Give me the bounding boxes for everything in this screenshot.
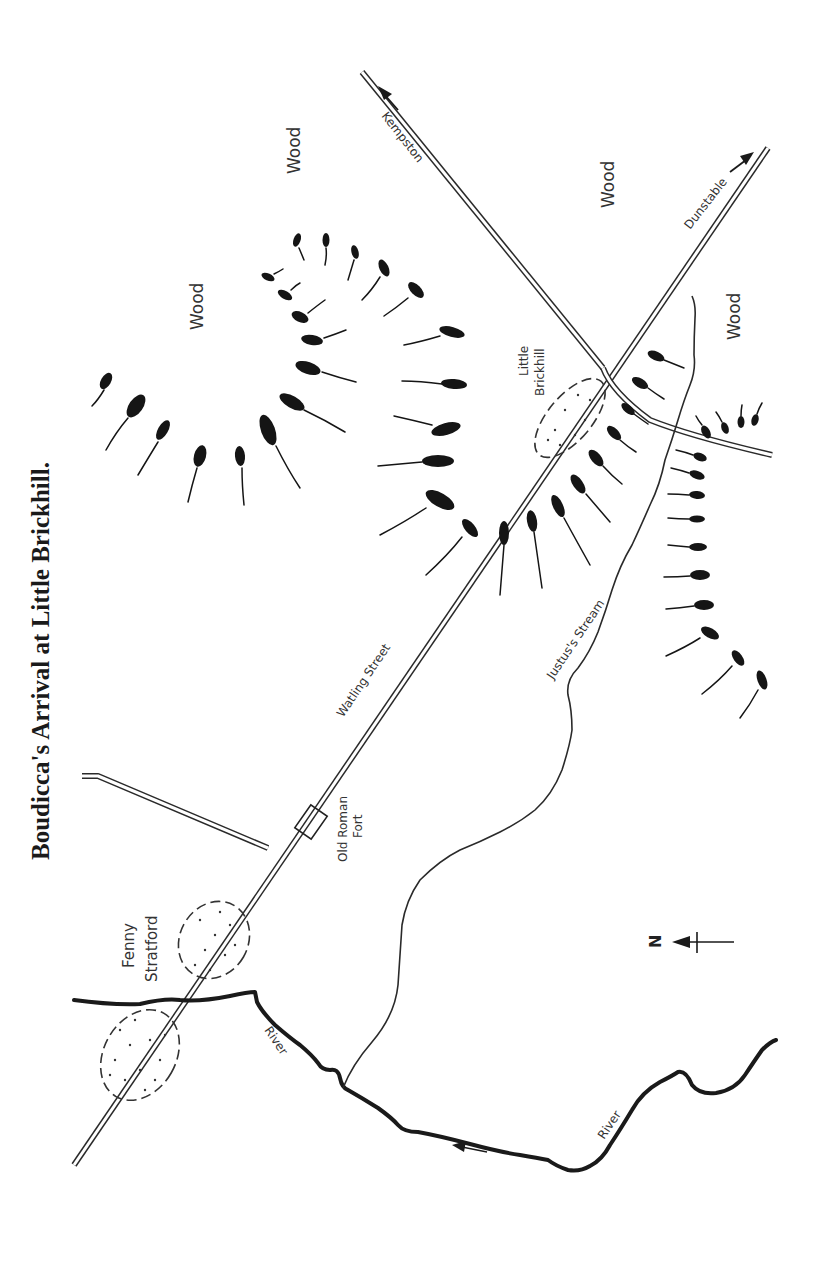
army-marker	[750, 403, 762, 427]
label-old-roman-fort-1: Old Roman	[336, 796, 350, 862]
army-marker	[668, 490, 705, 499]
army-marker	[300, 330, 346, 347]
army-marker	[668, 516, 705, 523]
army-marker	[290, 300, 325, 325]
army-marker	[404, 324, 466, 345]
label-wood-3: Wood	[598, 161, 618, 208]
army-marker	[499, 521, 509, 595]
army-marker	[738, 405, 745, 428]
army-marker	[676, 450, 708, 463]
army-marker	[188, 444, 209, 502]
map-canvas: Boudicca's Arrival at Little Brickhill.	[0, 0, 825, 1265]
army-marker	[630, 375, 664, 399]
label-little-brickhill-2: Brickhill	[533, 348, 547, 396]
army-marker	[525, 509, 542, 588]
army-marker	[234, 446, 246, 505]
label-old-roman-fort-2: Fort	[351, 814, 365, 838]
army-marker	[362, 258, 392, 300]
army-marker	[604, 423, 636, 452]
army-marker	[586, 447, 622, 484]
army-marker	[380, 486, 457, 535]
army-marker	[106, 391, 149, 450]
army-marker	[384, 279, 427, 316]
road-watling-street	[74, 148, 768, 1165]
label-dunstable: Dunstable	[681, 175, 730, 232]
north-label: N	[646, 935, 665, 948]
army-marker	[260, 269, 283, 283]
army-marker	[548, 493, 590, 565]
army-marker	[426, 516, 481, 575]
army-marker	[671, 468, 706, 481]
army-marker	[664, 570, 710, 580]
army-marker	[666, 600, 714, 610]
label-little-brickhill-1: Little	[517, 346, 531, 376]
label-fenny-stratford-2: Stratford	[143, 915, 161, 982]
army-marker	[277, 390, 345, 432]
army-marker	[568, 472, 610, 522]
road-kempston	[362, 72, 603, 368]
army-marker	[646, 348, 684, 368]
label-wood-1: Wood	[284, 127, 304, 174]
army-marker	[378, 455, 454, 467]
army-marker	[666, 624, 721, 656]
army-marker	[740, 669, 770, 718]
label-wood-2: Wood	[187, 283, 207, 330]
army-marker	[668, 543, 707, 551]
army-marker	[716, 412, 730, 435]
army-marker	[276, 283, 300, 302]
army-marker	[92, 371, 115, 406]
map-title: Boudicca's Arrival at Little Brickhill.	[27, 462, 54, 860]
label-river-lower: River	[595, 1108, 624, 1142]
road-fort-branch	[82, 776, 268, 848]
army-marker	[138, 418, 173, 475]
army-marker	[702, 648, 747, 694]
north-arrow-icon: N	[646, 932, 734, 953]
river	[74, 992, 776, 1171]
army-marker	[348, 244, 360, 280]
label-fenny-stratford-1: Fenny	[120, 923, 138, 968]
army-marker	[323, 233, 330, 265]
army-marker	[294, 358, 356, 382]
place-labels: Fenny Stratford Little Brickhill Old Rom…	[120, 109, 744, 1141]
label-river-upper: River	[262, 1024, 291, 1058]
army-marker	[291, 232, 304, 260]
army-marker	[402, 378, 467, 390]
army-marker	[394, 416, 462, 439]
label-wood-4: Wood	[724, 293, 744, 340]
army-marker	[256, 413, 300, 488]
